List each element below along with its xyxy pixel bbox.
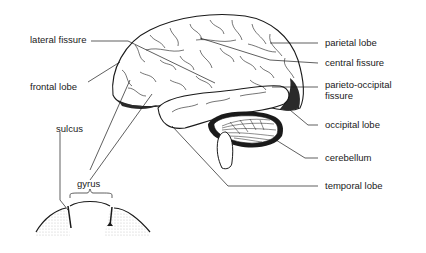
cerebellum-line — [276, 140, 318, 158]
label-central-fissure: central fissure — [325, 58, 384, 68]
sulcus-line-lower — [60, 132, 68, 210]
label-frontal-lobe: frontal lobe — [30, 82, 77, 92]
label-occipital-lobe: occipital lobe — [325, 120, 380, 130]
label-cerebellum: cerebellum — [325, 153, 371, 163]
label-sulcus: sulcus — [56, 124, 83, 134]
label-temporal-lobe: temporal lobe — [325, 181, 383, 191]
label-parieto-occipital-1: parieto-occipital — [325, 80, 392, 90]
sulcus-line-upper — [90, 80, 130, 170]
label-parieto-occipital-2: fissure — [325, 91, 353, 101]
label-lateral-fissure: lateral fissure — [30, 35, 87, 45]
label-gyrus: gyrus — [77, 179, 100, 189]
brain-stem — [217, 132, 233, 169]
label-parietal-lobe: parietal lobe — [325, 38, 377, 48]
gyrus-brace — [70, 189, 112, 198]
occipital-lobe-line — [290, 110, 318, 125]
gyrus-line — [90, 94, 152, 180]
gyrus-cross-section — [36, 189, 150, 236]
